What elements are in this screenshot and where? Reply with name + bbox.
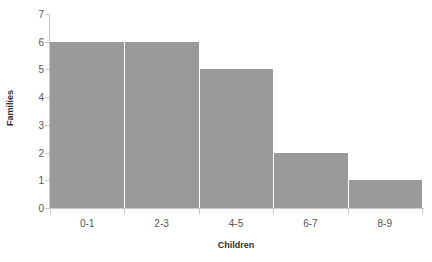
y-axis-tick-label: 0 bbox=[22, 203, 44, 214]
y-axis-tick-mark bbox=[45, 153, 50, 154]
x-axis-tick-label: 4-5 bbox=[199, 218, 273, 229]
y-axis-tick-label: 5 bbox=[22, 64, 44, 75]
y-axis-tick-mark bbox=[45, 69, 50, 70]
bar bbox=[50, 42, 124, 208]
x-axis-tick-mark bbox=[348, 209, 349, 214]
y-axis-tick-mark bbox=[45, 97, 50, 98]
y-axis-tick-mark bbox=[45, 42, 50, 43]
x-axis-tick-mark bbox=[124, 209, 125, 214]
bar bbox=[124, 42, 198, 208]
x-axis-title: Children bbox=[50, 240, 422, 250]
y-axis-tick-mark bbox=[45, 125, 50, 126]
plot-area bbox=[50, 14, 422, 208]
bar bbox=[199, 69, 273, 208]
x-axis-tick-mark bbox=[273, 209, 274, 214]
y-axis-tick-label: 6 bbox=[22, 36, 44, 47]
bar bbox=[348, 180, 422, 208]
x-axis-tick-label: 8-9 bbox=[348, 218, 422, 229]
x-axis-tick-label: 0-1 bbox=[50, 218, 124, 229]
y-axis-tick-label: 1 bbox=[22, 175, 44, 186]
histogram-chart: Families 01234567 0-12-34-56-78-9 Childr… bbox=[0, 0, 432, 262]
y-axis-tick-label: 4 bbox=[22, 92, 44, 103]
y-axis-tick-label: 3 bbox=[22, 119, 44, 130]
x-axis-tick-labels: 0-12-34-56-78-9 bbox=[50, 218, 422, 234]
x-axis-tick-label: 2-3 bbox=[124, 218, 198, 229]
bar bbox=[273, 153, 347, 208]
x-axis-tick-mark bbox=[50, 209, 51, 214]
x-axis-line bbox=[45, 208, 424, 209]
x-axis-tick-mark bbox=[422, 209, 423, 214]
y-axis-title-text: Families bbox=[5, 90, 15, 126]
x-axis-tick-label: 6-7 bbox=[273, 218, 347, 229]
y-axis-tick-label: 7 bbox=[22, 9, 44, 20]
x-axis-tick-mark bbox=[199, 209, 200, 214]
y-axis-tick-mark bbox=[45, 180, 50, 181]
y-axis-tick-labels: 01234567 bbox=[22, 0, 44, 216]
y-axis-tick-label: 2 bbox=[22, 147, 44, 158]
y-axis-tick-mark bbox=[45, 14, 50, 15]
y-axis-title: Families bbox=[0, 0, 20, 216]
